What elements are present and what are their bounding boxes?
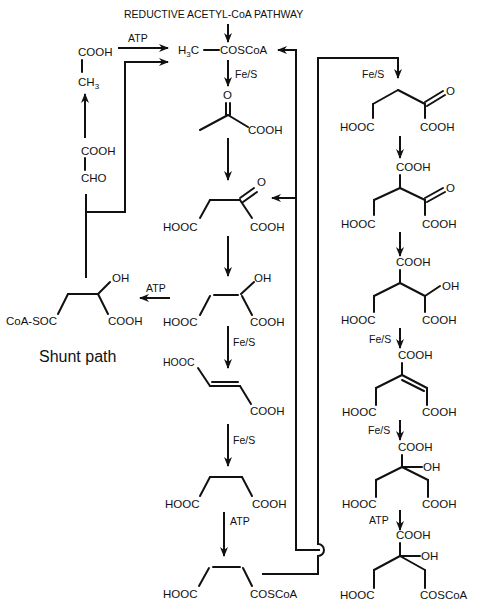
malyl-coa-molecule: OH CoA-SOC COOH (6, 272, 143, 327)
svg-text:O: O (446, 182, 455, 194)
svg-text:COOH: COOH (396, 256, 431, 268)
oxoglutarate-molecule: O HOOC COOH (340, 85, 455, 133)
catalyst-atp-2: ATP (146, 282, 166, 294)
svg-text:COOH: COOH (420, 121, 455, 133)
svg-text:COOH: COOH (398, 441, 433, 453)
pathway-diagram: REDUCTIVE ACETYL-CoA PATHWAY H3C COSCoA … (0, 0, 478, 608)
succinyl-coa-molecule: HOOC COSCoA (163, 567, 298, 600)
svg-text:HOOC: HOOC (341, 314, 376, 326)
svg-text:COSCoA: COSCoA (420, 589, 468, 601)
catalyst-fes-2: Fe/S (233, 336, 255, 348)
svg-text:COOH: COOH (422, 314, 457, 326)
fumarate-molecule: HOOC COOH (163, 356, 285, 417)
svg-text:HOOC: HOOC (163, 316, 198, 328)
svg-text:HOOC: HOOC (340, 121, 375, 133)
svg-text:H3C: H3C (178, 44, 199, 59)
svg-text:HOOC: HOOC (165, 498, 200, 510)
catalyst-atp-4: ATP (369, 514, 389, 526)
svg-text:COOH: COOH (250, 316, 285, 328)
aconitate-molecule: COOH HOOC COOH (342, 349, 457, 418)
svg-text:O: O (223, 89, 232, 101)
svg-text:COOH: COOH (250, 405, 285, 417)
svg-text:COOH: COOH (422, 406, 457, 418)
svg-text:CoA-SOC: CoA-SOC (6, 315, 57, 327)
svg-text:O: O (446, 85, 455, 97)
svg-text:COOH: COOH (396, 161, 431, 173)
svg-text:COOH: COOH (78, 46, 113, 58)
svg-text:COOH: COOH (252, 498, 287, 510)
pyruvate-molecule: O COOH (200, 89, 283, 136)
svg-text:HOOC: HOOC (163, 221, 198, 233)
svg-text:COOH: COOH (396, 529, 431, 541)
svg-text:OH: OH (112, 272, 129, 284)
citryl-coa-molecule: COOH OH HOOC COSCoA (340, 529, 468, 601)
svg-text:COOH: COOH (81, 145, 116, 157)
svg-text:HOOC: HOOC (340, 589, 375, 601)
malate-molecule: OH HOOC COOH (163, 272, 285, 328)
citrate-to-acetyl-coa-line (278, 50, 320, 550)
acetyl-coa-molecule: H3C COSCoA (178, 44, 268, 59)
svg-text:COOH: COOH (108, 315, 143, 327)
glyoxylate-molecule: COOH CHO (81, 145, 116, 184)
svg-text:CH3: CH3 (78, 76, 100, 91)
catalyst-fes-6: Fe/S (368, 424, 390, 436)
svg-text:OH: OH (254, 272, 271, 284)
catalyst-fes-3: Fe/S (233, 434, 255, 446)
svg-text:HOOC: HOOC (341, 218, 376, 230)
citrate-molecule: COOH OH HOOC COOH (342, 441, 457, 510)
diagram-title: REDUCTIVE ACETYL-CoA PATHWAY (124, 8, 303, 20)
catalyst-fes-4: Fe/S (362, 68, 384, 80)
svg-text:O: O (257, 176, 266, 188)
svg-text:COOH: COOH (422, 218, 457, 230)
shunt-path-label: Shunt path (39, 348, 116, 365)
svg-text:OH: OH (421, 550, 438, 562)
svg-text:COSCoA: COSCoA (220, 44, 268, 56)
acetate-molecule: COOH CH3 (78, 46, 113, 91)
svg-text:COOH: COOH (248, 124, 283, 136)
svg-text:HOOC: HOOC (163, 356, 195, 368)
oxaloacetate-molecule: O HOOC COOH (163, 176, 285, 233)
isocitrate-molecule: COOH OH HOOC COOH (341, 256, 459, 326)
svg-text:HOOC: HOOC (342, 406, 377, 418)
svg-text:COSCoA: COSCoA (250, 588, 298, 600)
svg-text:OH: OH (423, 461, 440, 473)
catalyst-fes-5: Fe/S (369, 333, 391, 345)
svg-text:OH: OH (442, 280, 459, 292)
catalyst-fes-1: Fe/S (235, 68, 257, 80)
svg-text:HOOC: HOOC (163, 588, 198, 600)
catalyst-atp-1: ATP (128, 32, 148, 44)
svg-text:COOH: COOH (398, 349, 433, 361)
svg-text:COOH: COOH (250, 221, 285, 233)
succinate-molecule: HOOC COOH (165, 477, 287, 510)
oxalosuccinate-molecule: COOH O HOOC COOH (341, 161, 457, 230)
svg-text:COOH: COOH (422, 498, 457, 510)
svg-text:CHO: CHO (81, 172, 107, 184)
svg-text:HOOC: HOOC (342, 498, 377, 510)
catalyst-atp-3: ATP (230, 515, 250, 527)
